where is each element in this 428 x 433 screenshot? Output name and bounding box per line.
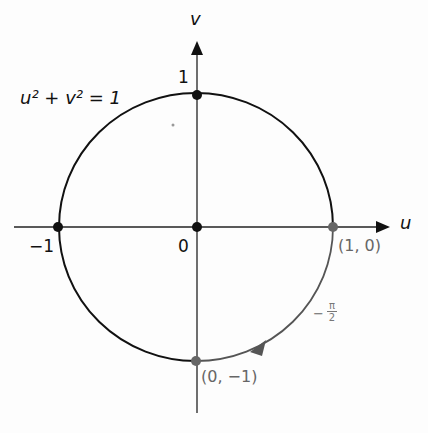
tick-label-top: 1 bbox=[178, 67, 189, 87]
arc-direction-arrow-icon bbox=[250, 340, 266, 356]
point-bottom bbox=[191, 356, 201, 366]
stray-dot bbox=[172, 124, 175, 127]
point-left bbox=[53, 222, 63, 232]
u-axis-arrow-icon bbox=[376, 221, 390, 233]
point-top bbox=[192, 90, 202, 100]
tick-label-origin: 0 bbox=[178, 236, 189, 256]
equation-label: u² + v² = 1 bbox=[20, 87, 121, 108]
tick-label-left: −1 bbox=[29, 236, 54, 256]
v-axis-arrow-icon bbox=[191, 41, 203, 55]
v-axis-label: v bbox=[190, 8, 201, 29]
arc-label-denominator: 2 bbox=[327, 311, 337, 323]
arc-label-sign: − bbox=[313, 306, 324, 321]
point-bottom-label: (0, −1) bbox=[201, 367, 257, 386]
u-axis-label: u bbox=[400, 212, 411, 233]
arc-label-fraction: π 2 bbox=[327, 300, 337, 323]
arc-label-numerator: π bbox=[327, 300, 337, 311]
unit-circle-figure: v u 1 −1 0 u² + v² = 1 (1, 0) (0, −1) − … bbox=[0, 0, 428, 433]
highlight-arc bbox=[196, 227, 333, 361]
point-right-label: (1, 0) bbox=[338, 236, 381, 255]
point-origin bbox=[192, 222, 202, 232]
point-right bbox=[328, 222, 338, 232]
